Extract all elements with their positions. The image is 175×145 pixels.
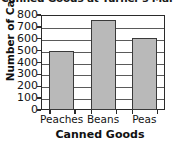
x-axis-title: Canned Goods <box>30 128 170 141</box>
bar-beans <box>91 20 116 110</box>
y-tick-label: 700 <box>4 21 38 32</box>
y-tick-label: 100 <box>4 92 38 103</box>
y-tick-label: 500 <box>4 45 38 56</box>
y-tick-label: 200 <box>4 80 38 91</box>
bar-peaches <box>49 51 74 110</box>
x-tick-label-beans: Beans <box>87 113 119 125</box>
bar-chart: Canned Goods at Turner's Mar Number of C… <box>0 0 175 145</box>
y-tick-label: 400 <box>4 57 38 68</box>
bars-layer <box>41 15 165 110</box>
x-tick-label-peaches: Peaches <box>40 113 83 125</box>
x-tick-mark <box>157 110 159 114</box>
y-tick-label: 0 <box>4 104 38 115</box>
y-tick-label: 600 <box>4 33 38 44</box>
bar-peas <box>132 38 157 110</box>
y-tick-label: 800 <box>4 9 38 20</box>
chart-title: Canned Goods at Turner's Mar <box>0 0 175 4</box>
y-tick-label: 300 <box>4 68 38 79</box>
x-tick-label-peas: Peas <box>132 113 156 125</box>
